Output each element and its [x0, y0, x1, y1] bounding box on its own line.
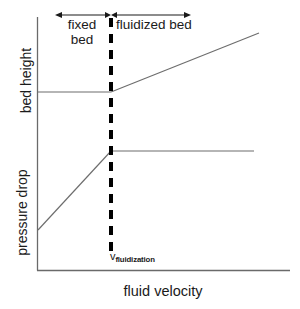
fluidization-velocity-subscript: fluidization [115, 255, 154, 264]
bed-height-rising-segment [111, 33, 259, 92]
region-label-fluidized-bed: fluidized bed [116, 18, 192, 33]
fluidization-chart-figure: fixed bed fluidized bed bed height press… [0, 0, 300, 309]
pressure-drop-rising-segment [38, 151, 111, 230]
y-axis-label-pressure-drop: pressure drop [15, 157, 30, 269]
axes-group [37, 17, 290, 271]
region-label-fixed-bed: fixed bed [59, 18, 105, 47]
x-axis-label-fluid-velocity: fluid velocity [37, 284, 289, 300]
fluidization-velocity-label: vfluidization [110, 251, 155, 263]
fixed-bed-arrow-head-right [105, 12, 111, 18]
y-axis-label-bed-height: bed height [19, 32, 34, 130]
pressure-drop-curve [38, 151, 254, 230]
